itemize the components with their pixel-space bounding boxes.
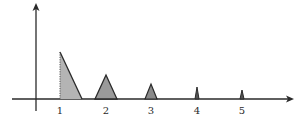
tick-label-1: 1 <box>57 106 63 116</box>
tick-label-3: 3 <box>148 106 154 116</box>
pulse-1 <box>60 52 82 99</box>
y-axis <box>33 3 40 111</box>
tick-label-2: 2 <box>103 106 109 116</box>
pulse-2 <box>95 75 117 99</box>
tick-label-5: 5 <box>239 106 245 116</box>
pulse-diagram: 1 2 3 4 5 <box>0 0 297 123</box>
pulse-3 <box>145 84 157 99</box>
pulse-4 <box>195 87 199 99</box>
pulse-5 <box>240 90 244 99</box>
tick-label-4: 4 <box>194 106 200 116</box>
